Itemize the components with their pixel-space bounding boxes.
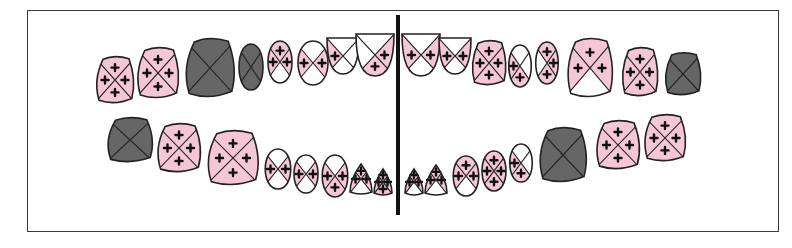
tooth-lower_right-1[interactable] [102, 114, 158, 166]
tooth-upper_left-8[interactable] [398, 30, 444, 80]
tooth-lower_left-1[interactable] [639, 111, 691, 165]
tooth-upper_right-2[interactable] [132, 44, 184, 102]
tooth-lower_left-3[interactable] [534, 124, 592, 186]
tooth-upper_left-5[interactable] [503, 41, 537, 91]
tooth-upper_left-7[interactable] [435, 34, 475, 78]
tooth-upper_left-2[interactable] [617, 44, 663, 100]
tooth-upper_right-3[interactable] [180, 35, 240, 101]
teeth-diagram [0, 0, 792, 248]
tooth-upper_left-1[interactable] [660, 49, 706, 99]
dental-chart [0, 0, 792, 248]
tooth-lower_left-2[interactable] [591, 117, 645, 173]
tooth-upper_right-5[interactable] [262, 37, 298, 87]
tooth-lower_right-4[interactable] [259, 145, 297, 193]
tooth-upper_left-3[interactable] [562, 35, 618, 101]
tooth-lower_right-2[interactable] [152, 120, 206, 176]
tooth-lower_left-8[interactable] [401, 165, 427, 199]
tooth-lower_right-5[interactable] [288, 151, 324, 197]
tooth-upper_right-1[interactable] [91, 53, 139, 107]
tooth-lower_right-6[interactable] [316, 151, 354, 201]
tooth-upper_right-4[interactable] [233, 40, 269, 94]
tooth-lower_right-7[interactable] [346, 160, 376, 198]
tooth-lower_right-8[interactable] [370, 165, 396, 199]
tooth-upper_right-8[interactable] [352, 30, 398, 80]
tooth-upper_left-4[interactable] [530, 38, 564, 88]
tooth-lower_right-3[interactable] [202, 127, 264, 189]
tooth-upper_left-6[interactable] [467, 37, 511, 89]
tooth-lower_left-6[interactable] [447, 152, 485, 200]
tooth-lower_left-7[interactable] [421, 161, 451, 199]
tooth-lower_left-4[interactable] [504, 140, 538, 186]
tooth-lower_left-5[interactable] [476, 147, 512, 195]
